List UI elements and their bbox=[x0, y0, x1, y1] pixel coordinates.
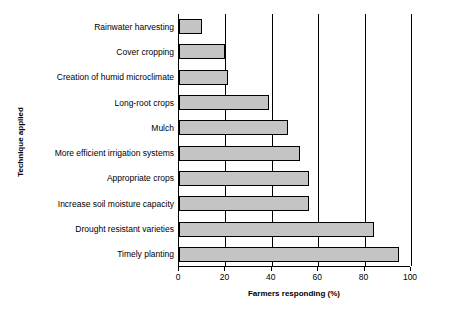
y-axis-tick-label: Creation of humid microclimate bbox=[4, 72, 174, 82]
x-axis-tick-label: 60 bbox=[304, 272, 330, 282]
x-axis-title: Farmers responding (%) bbox=[178, 289, 410, 298]
bar-row bbox=[179, 14, 410, 39]
x-axis-tick-mark bbox=[410, 267, 411, 271]
bar bbox=[179, 222, 374, 237]
bar bbox=[179, 146, 300, 161]
x-axis-tick-mark bbox=[178, 267, 179, 271]
bar bbox=[179, 247, 399, 262]
bar-row bbox=[179, 39, 410, 64]
bar bbox=[179, 44, 225, 59]
bar-chart: Technique applied Rainwater harvestingCo… bbox=[0, 0, 473, 315]
bar bbox=[179, 19, 202, 34]
bar-row bbox=[179, 90, 410, 115]
bar-row bbox=[179, 166, 410, 191]
y-axis-tick-label: Long-root crops bbox=[4, 98, 174, 108]
x-axis-tick-mark bbox=[364, 267, 365, 271]
bar-row bbox=[179, 65, 410, 90]
bar bbox=[179, 120, 288, 135]
x-axis-tick-label: 20 bbox=[211, 272, 237, 282]
gridline bbox=[411, 14, 412, 266]
bar-row bbox=[179, 115, 410, 140]
x-axis-tick-label: 100 bbox=[397, 272, 423, 282]
y-axis-tick-label: Increase soil moisture capacity bbox=[4, 199, 174, 209]
x-axis-tick-mark bbox=[271, 267, 272, 271]
y-axis-tick-label: Cover cropping bbox=[4, 47, 174, 57]
y-axis-tick-label: Timely planting bbox=[4, 249, 174, 259]
y-axis-tick-label: Appropriate crops bbox=[4, 173, 174, 183]
bar bbox=[179, 171, 309, 186]
y-axis-tick-label: More efficient irrigation systems bbox=[4, 148, 174, 158]
bar-row bbox=[179, 141, 410, 166]
plot-area bbox=[178, 14, 410, 267]
bar bbox=[179, 196, 309, 211]
x-axis-tick-label: 0 bbox=[165, 272, 191, 282]
y-axis-tick-label: Mulch bbox=[4, 123, 174, 133]
bar bbox=[179, 70, 228, 85]
bar-row bbox=[179, 191, 410, 216]
x-axis-tick-mark bbox=[224, 267, 225, 271]
bar-row bbox=[179, 242, 410, 267]
y-axis-tick-label: Drought resistant varieties bbox=[4, 224, 174, 234]
x-axis-ticks: 020406080100 bbox=[178, 267, 410, 287]
bar-row bbox=[179, 216, 410, 241]
bar bbox=[179, 95, 269, 110]
x-axis-tick-label: 80 bbox=[351, 272, 377, 282]
x-axis-tick-label: 40 bbox=[258, 272, 284, 282]
y-axis-tick-labels: Rainwater harvestingCover croppingCreati… bbox=[0, 14, 174, 267]
y-axis-tick-label: Rainwater harvesting bbox=[4, 22, 174, 32]
x-axis-tick-mark bbox=[317, 267, 318, 271]
